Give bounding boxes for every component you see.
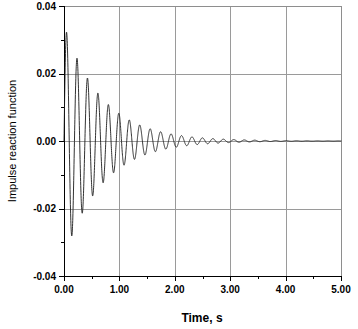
x-tick-label: 3.00 (220, 284, 240, 295)
chart-canvas: 0.001.002.003.004.005.00 -0.04-0.020.000… (0, 0, 358, 329)
x-tick-label: 4.00 (276, 284, 296, 295)
x-tick-label: 1.00 (110, 284, 130, 295)
y-tick-label: 0.02 (37, 68, 57, 79)
y-tick-label: -0.02 (33, 203, 56, 214)
x-tick-label: 0.00 (54, 284, 74, 295)
y-tick-label: 0.04 (37, 1, 57, 12)
y-tick-label: -0.04 (33, 271, 56, 282)
y-axis-title: Impulse reaction function (6, 80, 18, 202)
y-tick-label: 0.00 (37, 136, 57, 147)
x-tick-label: 2.00 (165, 284, 185, 295)
x-tick-label: 5.00 (331, 284, 351, 295)
impulse-reaction-chart-figure: 0.001.002.003.004.005.00 -0.04-0.020.000… (0, 0, 358, 329)
x-axis-title: Time, s (181, 311, 222, 325)
